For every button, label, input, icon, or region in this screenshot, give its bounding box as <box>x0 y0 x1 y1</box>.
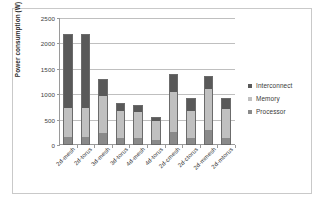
bar-segment-interconnect <box>222 99 230 109</box>
bar-segment-memory <box>82 108 90 137</box>
bar-slot <box>77 18 95 145</box>
bar-segment-processor <box>170 132 178 144</box>
y-axis-tick-label: 500 <box>44 116 55 123</box>
bar-slot <box>165 18 183 145</box>
bar-segment-processor <box>205 130 213 144</box>
y-axis-tick-labels: 05001000150020002500 <box>22 18 55 145</box>
bar-slot <box>147 18 165 145</box>
bar-segment-memory <box>64 108 72 137</box>
bar-segment-memory <box>222 109 230 138</box>
bar-group <box>59 18 235 145</box>
chart-legend: InterconnectMemoryProcessor <box>248 79 310 118</box>
bar-segment-memory <box>134 112 142 138</box>
x-axis-tick-labels: 2d-mesh2d-torus3d-mesh3d-torus4d-mesh4d-… <box>59 146 235 196</box>
bar-slot <box>217 18 235 145</box>
bar-slot <box>94 18 112 145</box>
chart-figure: Power consumption (W) 050010001500200025… <box>0 0 325 204</box>
bar-slot <box>182 18 200 145</box>
x-axis-tick-mark <box>235 145 236 148</box>
bar-slot <box>112 18 130 145</box>
x-axis-tick-label: 3d-mesh <box>90 146 111 167</box>
y-axis-tick-label: 2500 <box>41 15 55 22</box>
legend-item[interactable]: Interconnect <box>248 79 310 92</box>
bar-segment-processor <box>134 138 142 144</box>
stacked-bar[interactable] <box>186 98 196 145</box>
bar-segment-memory <box>187 111 195 138</box>
legend-swatch-icon <box>248 110 252 114</box>
bar-slot <box>129 18 147 145</box>
bar-segment-processor <box>187 138 195 144</box>
bar-segment-processor <box>117 138 125 144</box>
bar-segment-processor <box>222 138 230 144</box>
stacked-bar[interactable] <box>81 34 91 145</box>
stacked-bar[interactable] <box>204 76 214 145</box>
stacked-bar[interactable] <box>169 74 179 145</box>
bar-slot <box>200 18 218 145</box>
bar-segment-processor <box>152 140 160 144</box>
stacked-bar[interactable] <box>221 98 231 145</box>
legend-item[interactable]: Memory <box>248 92 310 105</box>
stacked-bar[interactable] <box>116 103 126 145</box>
y-axis-tick-label: 0 <box>51 142 55 149</box>
stacked-bar[interactable] <box>133 105 143 145</box>
legend-label: Memory <box>256 95 280 102</box>
y-axis-tick-label: 2000 <box>41 40 55 47</box>
y-axis-tick-label: 1000 <box>41 91 55 98</box>
bar-segment-interconnect <box>64 35 72 109</box>
bar-segment-interconnect <box>99 80 107 97</box>
bar-segment-processor <box>99 133 107 144</box>
bar-segment-memory <box>205 89 213 130</box>
legend-item[interactable]: Processor <box>248 105 310 118</box>
legend-label: Interconnect <box>256 82 292 89</box>
bar-segment-processor <box>64 137 72 144</box>
y-axis-tick-label: 1500 <box>41 65 55 72</box>
bar-segment-interconnect <box>170 75 178 92</box>
bar-segment-memory <box>152 121 160 140</box>
bar-segment-memory <box>99 96 107 133</box>
bar-segment-interconnect <box>205 77 213 89</box>
y-axis-title: Power consumption (W) <box>14 0 21 95</box>
stacked-bar[interactable] <box>151 117 161 145</box>
legend-swatch-icon <box>248 97 252 101</box>
stacked-bar[interactable] <box>98 79 108 146</box>
bar-segment-memory <box>170 92 178 132</box>
bar-slot <box>59 18 77 145</box>
stacked-bar[interactable] <box>63 34 73 145</box>
bar-segment-processor <box>82 137 90 144</box>
bar-segment-interconnect <box>187 99 195 111</box>
bar-segment-interconnect <box>82 35 90 109</box>
legend-swatch-icon <box>248 84 252 88</box>
bar-segment-memory <box>117 111 125 139</box>
legend-label: Processor <box>256 108 286 115</box>
